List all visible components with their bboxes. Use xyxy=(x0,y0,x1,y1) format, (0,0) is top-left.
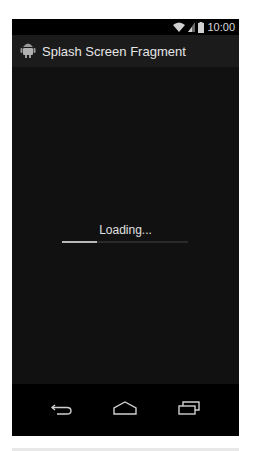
back-button[interactable] xyxy=(42,395,82,425)
home-button[interactable] xyxy=(105,395,145,425)
loading-text: Loading... xyxy=(12,223,239,237)
recents-button[interactable] xyxy=(169,395,209,425)
android-icon[interactable] xyxy=(20,40,36,62)
phone-screen: 10:00 Splash Screen Fragment Loading... xyxy=(12,19,239,436)
home-icon xyxy=(113,401,137,419)
action-bar: Splash Screen Fragment xyxy=(12,35,239,67)
splash-content: Loading... xyxy=(12,67,239,385)
recents-icon xyxy=(178,401,200,419)
status-time: 10:00 xyxy=(207,21,235,33)
progress-bar xyxy=(62,241,188,243)
signal-icon xyxy=(188,22,195,32)
app-title: Splash Screen Fragment xyxy=(42,44,186,59)
status-bar: 10:00 xyxy=(12,19,239,35)
back-arrow-icon xyxy=(51,401,73,419)
progress-fill xyxy=(62,241,97,243)
battery-icon xyxy=(198,22,204,33)
navigation-bar xyxy=(12,384,239,436)
wifi-icon xyxy=(173,22,185,32)
